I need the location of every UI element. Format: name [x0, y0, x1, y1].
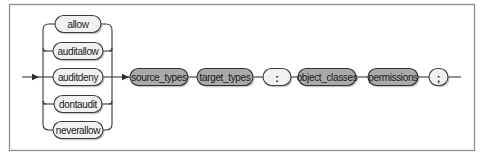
option-auditdeny: auditdeny — [53, 69, 105, 88]
option-label: auditdeny — [58, 72, 99, 83]
node-target-types: target_types — [197, 69, 255, 88]
option-dontaudit: dontaudit — [54, 96, 104, 115]
option-label: auditallow — [58, 46, 100, 57]
option-label: neverallow — [56, 125, 101, 136]
option-neverallow: neverallow — [53, 122, 105, 141]
node-label: : — [275, 72, 278, 84]
option-label: dontaudit — [59, 99, 98, 110]
option-label: allow — [67, 19, 89, 30]
node-label: source_types — [131, 72, 187, 83]
node-label: target_types — [200, 72, 251, 83]
node-object-classes: object_classes — [297, 69, 358, 88]
node-label: permissions — [368, 72, 418, 83]
syntax-diagram: allow auditallow auditdeny dontaudit nev… — [0, 0, 481, 156]
option-auditallow: auditallow — [53, 43, 105, 62]
node-label: ; — [437, 72, 440, 84]
node-permissions: permissions — [368, 69, 420, 88]
node-colon: : — [263, 69, 293, 88]
option-allow: allow — [55, 16, 103, 35]
node-label: object_classes — [297, 72, 358, 83]
node-source-types: source_types — [130, 69, 190, 88]
